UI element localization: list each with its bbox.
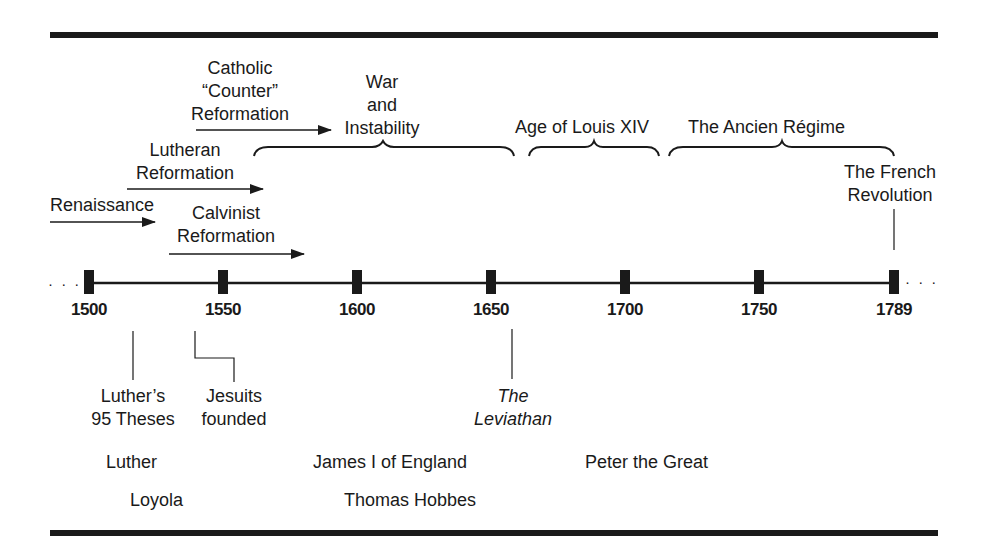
tick-1789 xyxy=(889,270,899,294)
tick-1700 xyxy=(620,270,630,294)
war-instability-brace xyxy=(254,141,514,156)
person-loyola: Loyola xyxy=(130,489,183,512)
person-james-i: James I of England xyxy=(313,451,467,474)
luthers-95-theses-label: Luther’s 95 Theses xyxy=(73,385,193,431)
year-label-1789: 1789 xyxy=(864,300,924,320)
war-instability-label: War and Instability xyxy=(332,71,432,140)
ancien-regime-label: The Ancien Régime xyxy=(688,116,845,139)
jesuits-founded-label: Jesuits founded xyxy=(184,385,284,431)
the-leviathan-label: The Leviathan xyxy=(453,385,573,431)
tick-1600 xyxy=(352,270,362,294)
tick-1550 xyxy=(218,270,228,294)
calvinist-reformation-label: Calvinist Reformation xyxy=(166,202,286,248)
age-of-louis-xiv-label: Age of Louis XIV xyxy=(515,116,649,139)
tick-1500 xyxy=(84,270,94,294)
lutheran-reformation-label: Lutheran Reformation xyxy=(125,139,245,185)
ellipsis-right: · · · xyxy=(905,270,938,293)
person-luther: Luther xyxy=(106,451,157,474)
person-peter-the-great: Peter the Great xyxy=(585,451,708,474)
jesuits-connector xyxy=(195,331,234,382)
tick-1650 xyxy=(486,270,496,294)
year-label-1750: 1750 xyxy=(729,300,789,320)
year-label-1650: 1650 xyxy=(461,300,521,320)
year-label-1600: 1600 xyxy=(327,300,387,320)
ellipsis-left: · · · xyxy=(48,272,81,295)
year-label-1700: 1700 xyxy=(595,300,655,320)
catholic-counter-reformation-label: Catholic “Counter” Reformation xyxy=(180,57,300,126)
french-revolution-label: The French Revolution xyxy=(830,161,950,207)
person-thomas-hobbes: Thomas Hobbes xyxy=(344,489,476,512)
ancien-regime-brace xyxy=(669,141,894,156)
tick-1750 xyxy=(754,270,764,294)
year-label-1550: 1550 xyxy=(193,300,253,320)
renaissance-label: Renaissance xyxy=(50,194,154,217)
year-label-1500: 1500 xyxy=(59,300,119,320)
louis-xiv-brace xyxy=(529,141,659,156)
